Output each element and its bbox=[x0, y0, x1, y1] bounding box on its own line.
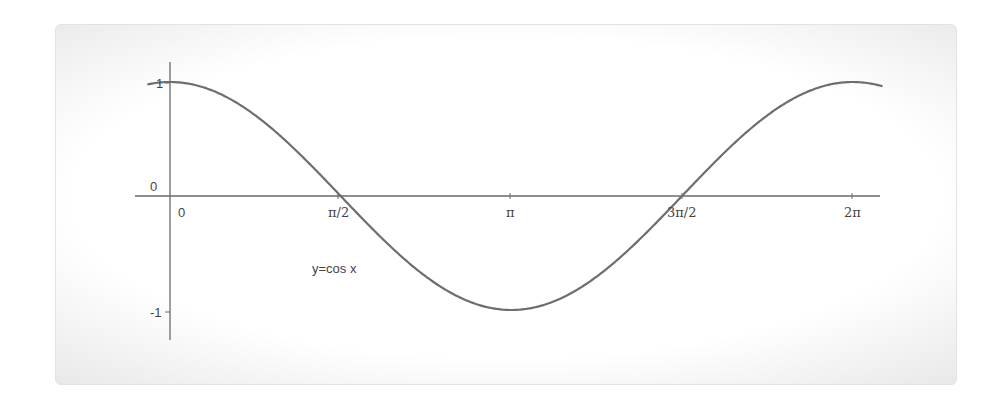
x-tick-label-2pi: 2π bbox=[844, 205, 861, 220]
curve-label: y=cos x bbox=[312, 261, 357, 276]
y-tick-label-1: 1 bbox=[156, 76, 163, 91]
cosine-chart: 1 0 -1 0 π/2 π 3π/2 2π y=cos x bbox=[0, 0, 1003, 401]
x-tick-label-pi-2: π/2 bbox=[328, 205, 349, 220]
y-tick-label-neg1: -1 bbox=[150, 305, 162, 320]
x-tick-label-0: 0 bbox=[178, 205, 185, 220]
y-tick-label-0: 0 bbox=[150, 179, 157, 194]
x-tick-label-pi: π bbox=[506, 205, 515, 220]
x-tick-label-3pi-2: 3π/2 bbox=[667, 205, 696, 220]
